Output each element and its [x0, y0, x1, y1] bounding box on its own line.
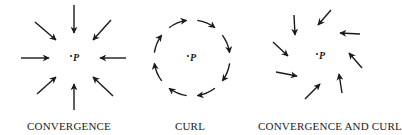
point-dot [70, 55, 72, 57]
arrow-icon [93, 20, 111, 40]
curl-label: CURL [175, 120, 205, 132]
curved-arrow-icon [222, 63, 229, 81]
curved-arrow-icon [154, 35, 161, 53]
arrow-icon [276, 72, 297, 76]
arrow-icon [305, 84, 320, 99]
curl-panel: P [154, 20, 229, 95]
arrow-icon [340, 33, 360, 34]
curved-arrow-icon [197, 88, 215, 95]
point-p-label: P [73, 52, 80, 63]
arrow-icon [273, 42, 288, 56]
curved-arrow-icon [154, 63, 161, 81]
convergence-and-curl-label: CONVERGENCE AND CURL [258, 120, 402, 132]
curved-arrow-icon [197, 20, 215, 27]
curved-arrow-icon [169, 20, 187, 27]
point-p-label: P [319, 50, 326, 61]
arrow-icon [294, 15, 295, 35]
point-dot [316, 53, 318, 55]
arrow-icon [318, 10, 331, 25]
convergence-label: CONVERGENCE [27, 120, 111, 132]
convergence-and-curl-panel: P [273, 10, 362, 99]
arrow-icon [339, 74, 342, 93]
arrow-icon [349, 53, 362, 68]
convergence-panel: P [21, 5, 126, 110]
arrow-icon [37, 77, 56, 94]
point-dot [187, 55, 189, 57]
arrow-icon [93, 77, 113, 96]
point-p-label: P [190, 52, 197, 63]
curved-arrow-icon [169, 88, 187, 95]
curved-arrow-icon [222, 35, 229, 53]
arrow-icon [35, 22, 56, 40]
